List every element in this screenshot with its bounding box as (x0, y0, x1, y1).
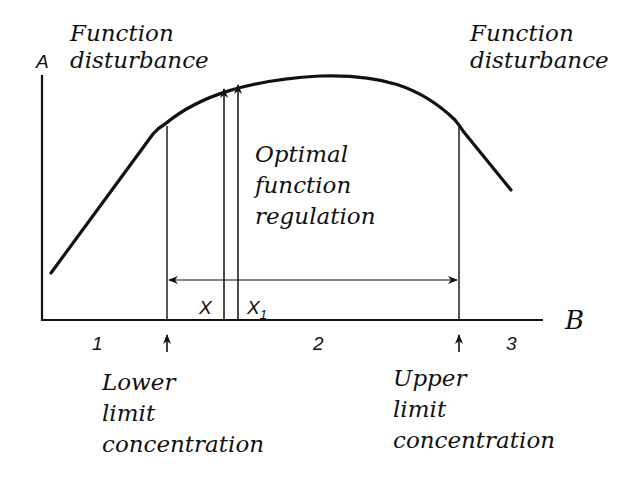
region-3-label: 3 (506, 330, 517, 357)
upper-limit-concentration-label: Upper limit concentration (393, 363, 555, 456)
label-line: Optimal (255, 139, 375, 170)
label-line: disturbance (70, 47, 209, 74)
y-axis-label: A (36, 48, 49, 75)
label-line: function (255, 170, 375, 201)
lower-limit-concentration-label: Lower limit concentration (102, 367, 264, 460)
optimal-function-regulation-label: Optimal function regulation (255, 139, 375, 232)
left-function-disturbance-label: Function disturbance (70, 20, 209, 74)
region-2-label: 2 (313, 330, 324, 357)
region-1-label: 1 (92, 330, 103, 357)
x1-marker-subscript: 1 (260, 307, 267, 322)
x-marker-label: X (199, 294, 212, 321)
label-line: Function (470, 20, 609, 47)
label-line: limit (102, 398, 264, 429)
label-line: Function (70, 20, 209, 47)
label-line: concentration (393, 425, 555, 456)
label-line: disturbance (470, 47, 609, 74)
right-function-disturbance-label: Function disturbance (470, 20, 609, 74)
x1-marker-label: X1 (247, 294, 267, 328)
label-line: Upper (393, 363, 555, 394)
x-axis-label: B (565, 307, 584, 334)
label-line: limit (393, 394, 555, 425)
label-line: concentration (102, 429, 264, 460)
label-line: Lower (102, 367, 264, 398)
x1-marker-base: X (247, 297, 260, 318)
label-line: regulation (255, 201, 375, 232)
